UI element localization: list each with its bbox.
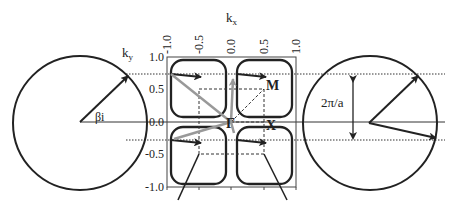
m-point-label: M	[266, 78, 279, 93]
x-tick: -0.5	[192, 35, 206, 54]
incident-arrow-icon	[369, 76, 418, 123]
right-circle-group: 2π/a	[303, 56, 437, 190]
diagram-svg: βi ky	[0, 0, 452, 210]
x-tick: 1.0	[289, 39, 303, 54]
y-tick: -1.0	[145, 180, 164, 194]
left-circle-group: βi ky	[13, 45, 147, 190]
band-diagram: βi ky	[0, 0, 452, 210]
diffracted-arrow-icon	[369, 123, 436, 138]
y-tick: 0.5	[149, 82, 164, 96]
ky-label: ky	[122, 45, 134, 62]
y-tick: -0.5	[145, 147, 164, 161]
two-pi-over-a-label: 2π/a	[321, 95, 344, 110]
y-tick: 0.0	[149, 115, 164, 129]
brillouin-plot: Γ M X 1.0 0.5 0.0 -0.5 -1.0 -1.0 -0.5 0.…	[145, 10, 303, 200]
beta-i-label: βi	[95, 110, 105, 124]
x-tick: 0.5	[257, 39, 271, 54]
x-tick: -1.0	[160, 35, 174, 54]
x-point-label: X	[266, 118, 276, 133]
x-tick: 0.0	[224, 39, 238, 54]
kx-label: kx	[226, 10, 238, 27]
gamma-point-label: Γ	[226, 116, 235, 131]
